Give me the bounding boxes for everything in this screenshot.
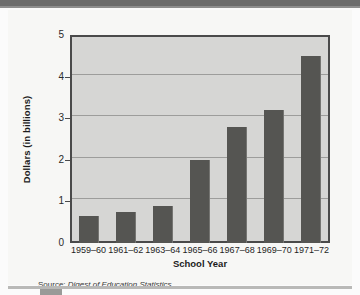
x-axis-tick-label: 1961–62 bbox=[107, 245, 144, 255]
x-axis-tick-label: 1971–72 bbox=[293, 245, 330, 255]
chart-panel: Dollars (in billions) 012345 1959–601961… bbox=[8, 10, 352, 285]
y-axis-tick-label: 2 bbox=[58, 155, 64, 165]
x-axis-tick-label: 1969–70 bbox=[256, 245, 293, 255]
bar-slot bbox=[181, 35, 218, 243]
bar-slot bbox=[293, 35, 330, 243]
bar bbox=[264, 110, 284, 243]
y-axis-tick-label: 3 bbox=[58, 113, 64, 123]
x-axis-tick-labels: 1959–601961–621963–641965–661967–681969–… bbox=[70, 245, 330, 255]
bar bbox=[79, 216, 99, 243]
bar-slot bbox=[144, 35, 181, 243]
x-axis-tick-label: 1963–64 bbox=[144, 245, 181, 255]
x-axis-title: School Year bbox=[70, 258, 330, 269]
bar bbox=[190, 160, 210, 243]
y-axis-tick-label: 1 bbox=[58, 196, 64, 206]
top-decorative-band-highlight bbox=[0, 6, 360, 8]
y-axis-title-label: Dollars (in billions) bbox=[22, 95, 33, 183]
y-axis-tick-label: 4 bbox=[58, 72, 64, 82]
bottom-tab-marker bbox=[40, 289, 62, 295]
x-axis-tick-label: 1967–68 bbox=[219, 245, 256, 255]
bar bbox=[227, 127, 247, 243]
y-axis-title: Dollars (in billions) bbox=[20, 35, 34, 243]
chart-page: Dollars (in billions) 012345 1959–601961… bbox=[0, 0, 360, 295]
plot-wrapper bbox=[70, 35, 330, 243]
x-axis-tick-label: 1959–60 bbox=[70, 245, 107, 255]
bar bbox=[153, 206, 173, 243]
x-axis-tick-label: 1965–66 bbox=[181, 245, 218, 255]
bar-slot bbox=[70, 35, 107, 243]
bar-series bbox=[70, 35, 330, 243]
y-axis-tick-label: 0 bbox=[58, 238, 64, 248]
y-axis-tick-label: 5 bbox=[58, 30, 64, 40]
bar-slot bbox=[256, 35, 293, 243]
bar-slot bbox=[107, 35, 144, 243]
bar-slot bbox=[219, 35, 256, 243]
bar bbox=[116, 212, 136, 243]
y-axis-ticks: 012345 bbox=[46, 35, 70, 243]
bar bbox=[301, 56, 321, 243]
